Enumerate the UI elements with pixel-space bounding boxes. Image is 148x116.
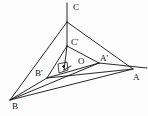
vertex-label-A: A xyxy=(133,73,140,82)
vertex-label-B-prime: B' xyxy=(35,69,43,78)
segment-bprime-to-a xyxy=(47,69,133,78)
segment-a-to-b xyxy=(10,69,133,100)
right-angle-marker-group xyxy=(58,62,68,73)
vertex-label-C: C xyxy=(73,3,79,12)
segment-b-to-bprime xyxy=(10,78,47,100)
segments-group xyxy=(10,3,147,100)
right-angle-dot xyxy=(63,66,65,68)
geometry-figure: C C' O A' A B' B xyxy=(0,0,148,116)
segment-aprime-to-aext xyxy=(99,63,147,68)
vertex-label-A-prime: A' xyxy=(100,54,108,63)
vertex-label-C-prime: C' xyxy=(71,38,79,47)
vertex-label-B: B xyxy=(12,102,18,111)
diagram-canvas xyxy=(0,0,148,116)
point-label-O: O xyxy=(78,57,85,66)
